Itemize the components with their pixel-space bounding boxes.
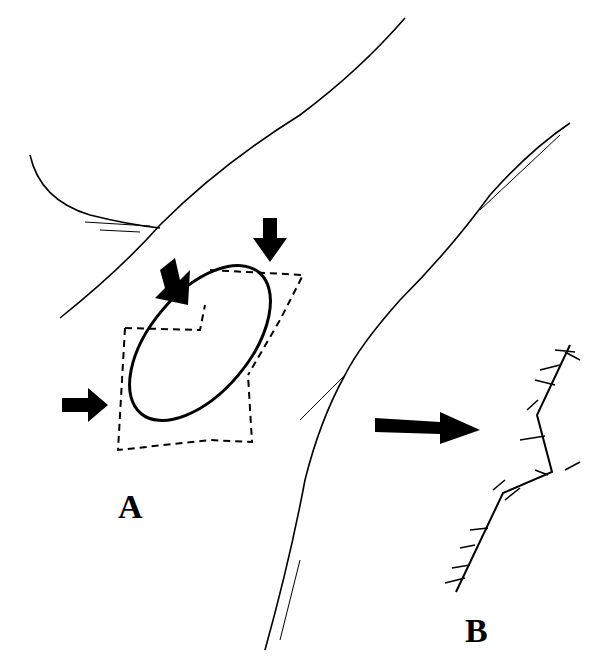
body-contour-lines: [30, 18, 570, 650]
transition-arrow-icon: [375, 412, 480, 444]
arrow-right-icon: [62, 388, 108, 422]
zigzag-suture-line: [445, 345, 580, 592]
panel-label-b: B: [465, 612, 488, 650]
arrow-down-icon: [253, 218, 287, 262]
defect-ellipse: [103, 240, 298, 445]
panel-label-a: A: [118, 488, 143, 526]
flap-outlines: [118, 270, 303, 450]
surgical-diagram: [0, 0, 599, 667]
arrow-down-right-icon: [155, 258, 190, 305]
